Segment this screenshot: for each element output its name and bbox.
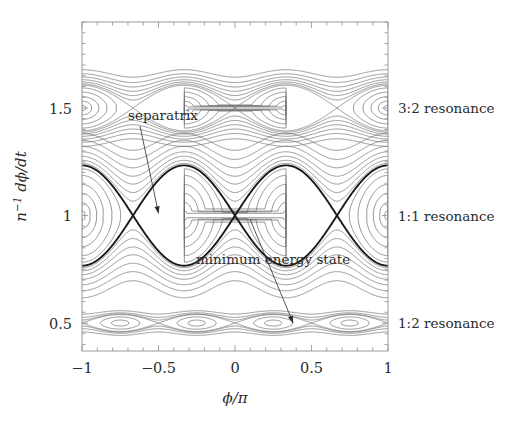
- y-axis-title: n−1 dϕ/dt: [11, 150, 30, 221]
- contour-curve: [82, 281, 388, 298]
- contour-curve: [82, 125, 388, 137]
- contour-curve: [82, 84, 388, 100]
- label-3-2-resonance: 3:2 resonance: [398, 100, 495, 116]
- y-tick-label: 1: [63, 208, 72, 224]
- y-axis-title-group: n−1 dϕ/dt: [11, 150, 30, 221]
- y-axis-title-base: n: [12, 212, 30, 222]
- side-label-layer: 3:2 resonance1:1 resonance1:2 resonance: [398, 100, 495, 331]
- y-axis-title-numerator: dϕ: [12, 172, 30, 197]
- label-1-2-resonance: 1:2 resonance: [398, 315, 495, 331]
- plot-frame: [82, 22, 388, 351]
- contour-curve: [82, 133, 388, 150]
- annotation-minimum-energy-state-arrow: [250, 220, 293, 324]
- x-axis-title-numerator: ϕ: [222, 389, 232, 407]
- y-axis-title-exponent: −1: [11, 197, 23, 212]
- annotation-layer: separatrixminimum energy state: [128, 107, 350, 323]
- x-tick-label: 0: [230, 360, 239, 376]
- contour-curve: [177, 317, 216, 329]
- x-tick-label: 1: [383, 360, 392, 376]
- contour-curve: [341, 320, 358, 326]
- x-tick-label: 0.5: [300, 360, 323, 376]
- y-tick-label: 0.5: [49, 316, 72, 332]
- resonance-zone-3: [82, 311, 388, 336]
- contour-curve: [82, 82, 388, 96]
- contour-curve: [82, 152, 388, 176]
- contour-curve: [188, 320, 205, 326]
- contour-curve: [82, 70, 388, 78]
- x-axis-title-denominator: π: [237, 389, 249, 407]
- contour-curve: [82, 139, 388, 147]
- x-tick-label: −1: [71, 360, 92, 376]
- resonance-zone-2: [82, 133, 388, 298]
- annotation-separatrix-arrowhead: [155, 206, 160, 213]
- contour-curve: [82, 74, 388, 83]
- contour-curve: [112, 320, 129, 326]
- y-axis-title-denominator: dt: [12, 150, 30, 167]
- contour-curve: [265, 320, 282, 326]
- phase-space-plot: −1−0.500.510.511.5ϕ/πn−1 dϕ/dt3:2 resona…: [0, 0, 512, 426]
- annotation-separatrix-text: separatrix: [128, 107, 198, 123]
- x-tick-label: −0.5: [141, 360, 176, 376]
- contour-curve: [254, 317, 293, 329]
- contour-curve: [101, 317, 140, 329]
- contour-curve: [82, 134, 388, 143]
- x-axis-title: ϕ/π: [222, 389, 248, 407]
- label-1-1-resonance: 1:1 resonance: [398, 208, 495, 224]
- contour-curve: [82, 85, 388, 108]
- contour-curve: [82, 156, 388, 184]
- contour-curve: [82, 332, 388, 335]
- annotation-minimum-energy-state-text: minimum energy state: [196, 251, 350, 267]
- contour-curve: [330, 317, 369, 329]
- contour-curve: [82, 80, 388, 92]
- contour-curve: [82, 311, 388, 314]
- y-tick-label: 1.5: [49, 101, 72, 117]
- figure-container: −1−0.500.510.511.5ϕ/πn−1 dϕ/dt3:2 resona…: [0, 0, 512, 426]
- separatrix-curve: [82, 165, 388, 215]
- contour-curve: [82, 163, 388, 201]
